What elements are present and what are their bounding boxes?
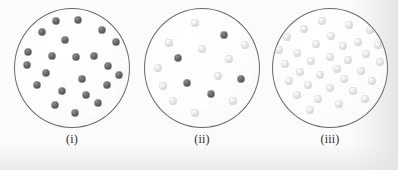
particle-light bbox=[317, 72, 324, 79]
particle-dark bbox=[79, 76, 86, 83]
container-circle-i bbox=[14, 8, 130, 128]
particle-light bbox=[375, 42, 382, 49]
panel-label-iii: (iii) bbox=[266, 132, 394, 147]
particle-dark bbox=[208, 91, 215, 98]
particle-dark bbox=[99, 27, 106, 34]
particle-dark bbox=[34, 82, 41, 89]
particle-light bbox=[282, 61, 289, 68]
particle-dark bbox=[238, 76, 245, 83]
particle-dark bbox=[73, 54, 80, 61]
particle-dark bbox=[49, 53, 56, 60]
panel-group: (i) (ii) (iii) bbox=[0, 0, 398, 170]
particle-dark bbox=[116, 72, 123, 79]
container-circle-ii bbox=[144, 8, 260, 128]
particle-light bbox=[369, 78, 376, 85]
particle-light bbox=[341, 76, 348, 83]
particle-light bbox=[215, 73, 222, 80]
particle-light bbox=[230, 98, 237, 105]
particle-dark bbox=[52, 102, 59, 109]
particle-light bbox=[199, 46, 206, 53]
particle-light bbox=[345, 57, 352, 64]
container-circle-iii bbox=[272, 8, 388, 128]
particle-dark bbox=[75, 17, 82, 24]
panel-i: (i) bbox=[8, 4, 136, 164]
particle-dark bbox=[113, 39, 120, 46]
panel-ii: (ii) bbox=[138, 4, 266, 164]
particle-dark bbox=[83, 92, 90, 99]
particle-light bbox=[319, 18, 326, 25]
particle-light bbox=[377, 59, 384, 66]
particle-light bbox=[327, 85, 334, 92]
particle-dark bbox=[24, 62, 31, 69]
particle-light bbox=[301, 26, 308, 33]
particle-light bbox=[192, 20, 199, 27]
particle-light bbox=[350, 88, 357, 95]
particle-light bbox=[307, 107, 314, 114]
particle-light bbox=[155, 65, 162, 72]
particle-dark bbox=[91, 53, 98, 60]
particle-light bbox=[276, 47, 283, 54]
particle-light bbox=[355, 39, 362, 46]
particle-light bbox=[367, 27, 374, 34]
particle-light bbox=[192, 110, 199, 117]
particle-dark bbox=[105, 63, 112, 70]
particle-light bbox=[336, 101, 343, 108]
particle-dark bbox=[72, 110, 79, 117]
particle-light bbox=[315, 96, 322, 103]
particle-light bbox=[305, 82, 312, 89]
particle-light bbox=[284, 34, 291, 41]
particle-dark bbox=[25, 49, 32, 56]
particle-light bbox=[313, 41, 320, 48]
particle-dark bbox=[62, 37, 69, 44]
particle-light bbox=[328, 33, 335, 40]
particle-light bbox=[294, 50, 301, 57]
particle-dark bbox=[53, 18, 60, 25]
particle-light bbox=[294, 92, 301, 99]
particle-light bbox=[160, 83, 167, 90]
figure-page: (i) (ii) (iii) bbox=[0, 0, 398, 170]
particle-light bbox=[362, 96, 369, 103]
particle-dark bbox=[184, 80, 191, 87]
panel-iii: (iii) bbox=[266, 4, 394, 164]
particle-light bbox=[170, 98, 177, 105]
particle-light bbox=[346, 22, 353, 29]
particle-light bbox=[226, 56, 233, 63]
panel-label-ii: (ii) bbox=[138, 132, 266, 147]
panel-label-i: (i) bbox=[8, 132, 136, 147]
particle-light bbox=[327, 54, 334, 61]
particle-dark bbox=[221, 32, 228, 39]
particle-dark bbox=[39, 29, 46, 36]
particle-light bbox=[358, 68, 365, 75]
particle-dark bbox=[43, 70, 50, 77]
particle-light bbox=[297, 69, 304, 76]
particle-dark bbox=[104, 82, 111, 89]
particle-dark bbox=[59, 88, 66, 95]
particle-dark bbox=[175, 55, 182, 62]
particle-light bbox=[363, 51, 370, 58]
particle-light bbox=[308, 58, 315, 65]
particle-light bbox=[242, 42, 249, 49]
particle-light bbox=[334, 66, 341, 73]
particle-dark bbox=[95, 100, 102, 107]
particle-light bbox=[166, 40, 173, 47]
particle-light bbox=[286, 78, 293, 85]
particle-light bbox=[340, 43, 347, 50]
